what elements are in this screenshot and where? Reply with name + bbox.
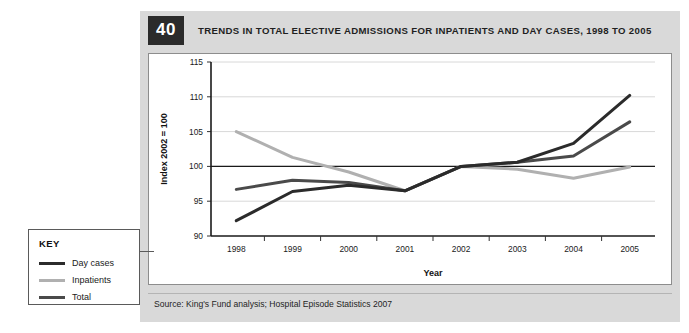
legend-swatch-inpatients: [39, 279, 65, 282]
y-axis-tick-label: 100: [189, 161, 203, 171]
legend-swatch-total: [39, 296, 65, 299]
source-text: Source: King's Fund analysis; Hospital E…: [154, 299, 392, 309]
x-axis-tick-label: 2002: [452, 244, 471, 254]
source-bar: Source: King's Fund analysis; Hospital E…: [148, 293, 672, 314]
legend-key-box: KEY Day cases Inpatients Total: [28, 229, 140, 305]
x-axis-tick-label: 1999: [283, 244, 302, 254]
x-axis-tick-label: 2005: [620, 244, 639, 254]
legend-label-inpatients: Inpatients: [72, 275, 111, 285]
y-axis-title: Index 2002 = 100: [159, 113, 169, 184]
figure-title: TRENDS IN TOTAL ELECTIVE ADMISSIONS FOR …: [198, 25, 652, 36]
x-axis-tick-label: 1998: [227, 244, 246, 254]
legend-label-day-cases: Day cases: [72, 258, 114, 268]
y-axis-tick-label: 90: [194, 231, 204, 241]
series-line-total: [236, 122, 629, 191]
figure-header: 40 TRENDS IN TOTAL ELECTIVE ADMISSIONS F…: [140, 11, 680, 49]
legend-heading: KEY: [39, 238, 60, 249]
legend-item-day-cases: Day cases: [39, 258, 114, 268]
chart-plot-area: 9095100105110115199819992000200120022003…: [148, 53, 672, 285]
y-axis-tick-label: 115: [190, 57, 204, 67]
key-connector-line: [140, 251, 154, 252]
legend-item-total: Total: [39, 292, 91, 302]
y-axis-tick-label: 110: [190, 92, 204, 102]
figure-panel: 40 TRENDS IN TOTAL ELECTIVE ADMISSIONS F…: [140, 11, 680, 322]
line-chart-svg: 9095100105110115199819992000200120022003…: [149, 54, 671, 284]
legend-item-inpatients: Inpatients: [39, 275, 111, 285]
x-axis-tick-label: 2004: [564, 244, 583, 254]
x-axis-tick-label: 2003: [508, 244, 527, 254]
legend-swatch-day-cases: [39, 262, 65, 265]
x-axis-tick-label: 2000: [339, 244, 358, 254]
x-axis-tick-label: 2001: [396, 244, 415, 254]
legend-label-total: Total: [72, 292, 91, 302]
x-axis-title: Year: [423, 268, 443, 278]
figure-number-badge: 40: [148, 16, 184, 45]
y-axis-tick-label: 105: [189, 127, 203, 137]
y-axis-tick-label: 95: [194, 196, 204, 206]
